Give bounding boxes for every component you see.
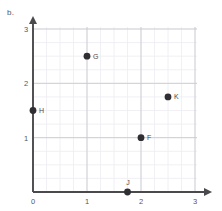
data-point-label-g: G: [93, 53, 98, 60]
data-point-j[interactable]: [124, 189, 131, 196]
data-point-label-h: H: [39, 107, 44, 114]
minor-gridlines: [33, 27, 197, 192]
data-point-g[interactable]: [84, 53, 91, 60]
figure-root: b. 0123 123 GKHFJ: [0, 0, 222, 211]
axes: [33, 22, 206, 192]
x-tick-label: 2: [139, 197, 143, 206]
data-point-label-k: K: [174, 93, 179, 100]
x-tick-labels: 0123: [31, 197, 197, 206]
x-tick-label: 3: [193, 197, 197, 206]
major-gridlines: [33, 27, 197, 192]
y-tick-labels: 123: [24, 25, 28, 143]
scatter-plot: 0123 123 GKHFJ: [0, 0, 222, 211]
data-point-h[interactable]: [30, 107, 37, 114]
data-point-k[interactable]: [165, 94, 172, 101]
y-tick-label: 2: [24, 79, 28, 88]
data-point-f[interactable]: [138, 134, 145, 141]
x-tick-label: 0: [31, 197, 35, 206]
data-point-label-j: J: [126, 179, 130, 186]
y-tick-label: 3: [24, 25, 28, 34]
y-tick-label: 1: [24, 134, 28, 143]
x-tick-label: 1: [85, 197, 89, 206]
data-point-label-f: F: [147, 134, 151, 141]
